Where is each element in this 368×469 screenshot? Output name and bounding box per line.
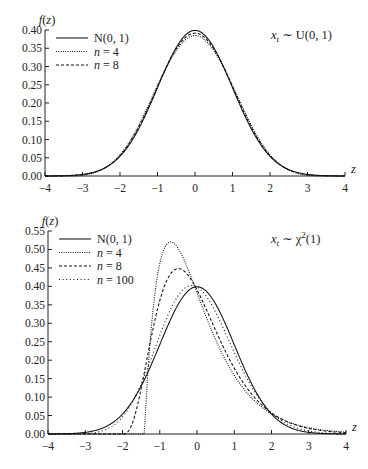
x-tick-label: 1 <box>231 440 237 452</box>
x-axis-label: z <box>351 420 357 434</box>
series-n-0-1 <box>48 287 346 434</box>
x-tick-label: 4 <box>342 182 348 194</box>
y-tick-label: 0.25 <box>25 336 45 348</box>
x-tick-label: 0 <box>192 182 198 194</box>
x-tick-label: 2 <box>269 440 275 452</box>
y-tick-label: 0.45 <box>25 262 45 274</box>
y-axis-label: f(z) <box>42 214 59 228</box>
series-n-0-1 <box>45 30 345 176</box>
series-n-100 <box>48 286 346 434</box>
series-n-4 <box>45 36 345 176</box>
legend-label: N(0, 1) <box>94 31 129 45</box>
y-tick-label: 0.00 <box>25 428 45 440</box>
y-tick-label: 0.15 <box>25 373 45 385</box>
y-tick-label: 0.50 <box>25 243 45 255</box>
y-tick-label: 0.30 <box>25 317 45 329</box>
y-axis-label: f(z) <box>39 13 56 27</box>
legend-label: n = 8 <box>94 58 119 72</box>
y-tick-label: 0.10 <box>22 134 42 146</box>
x-tick-label: −3 <box>76 182 88 194</box>
legend-label: n = 8 <box>97 259 122 273</box>
series-n-8 <box>48 269 346 434</box>
y-tick-label: 0.30 <box>22 61 42 73</box>
y-tick-label: 0.35 <box>22 42 42 54</box>
y-tick-label: 0.10 <box>25 391 45 403</box>
legend-label: N(0, 1) <box>97 232 132 246</box>
legend-label: n = 4 <box>97 246 122 260</box>
y-tick-label: 0.05 <box>25 410 45 422</box>
y-tick-label: 0.20 <box>25 354 45 366</box>
x-tick-label: −2 <box>114 182 126 194</box>
x-tick-label: 3 <box>306 440 312 452</box>
x-tick-label: 3 <box>305 182 311 194</box>
series-n-8 <box>45 33 345 176</box>
distribution-annotation: xt ∼ U(0, 1) <box>270 28 332 44</box>
x-tick-label: −4 <box>42 440 54 452</box>
x-axis-label: z <box>350 162 356 176</box>
chart-chi-square: 0.000.050.100.150.200.250.300.350.400.45… <box>25 214 357 452</box>
y-tick-label: 0.00 <box>22 170 42 182</box>
x-tick-label: 0 <box>194 440 200 452</box>
x-tick-label: −2 <box>116 440 128 452</box>
y-tick-label: 0.15 <box>22 115 42 127</box>
x-tick-label: −1 <box>151 182 163 194</box>
x-tick-label: 1 <box>230 182 236 194</box>
figure: 0.000.050.100.150.200.250.300.350.40−4−3… <box>0 0 368 469</box>
y-tick-label: 0.20 <box>22 97 42 109</box>
distribution-annotation: xt ∼ χ2(1) <box>270 230 320 248</box>
x-tick-label: 4 <box>343 440 349 452</box>
chart-uniform: 0.000.050.100.150.200.250.300.350.40−4−3… <box>22 13 356 194</box>
x-tick-label: −4 <box>39 182 51 194</box>
y-tick-label: 0.40 <box>25 280 45 292</box>
x-tick-label: 2 <box>267 182 273 194</box>
x-tick-label: −1 <box>154 440 166 452</box>
y-tick-label: 0.05 <box>22 152 42 164</box>
series-n-4 <box>48 242 346 434</box>
y-tick-label: 0.35 <box>25 299 45 311</box>
legend-label: n = 4 <box>94 45 119 59</box>
x-tick-label: −3 <box>79 440 91 452</box>
y-tick-label: 0.25 <box>22 79 42 91</box>
legend-label: n = 100 <box>97 273 134 287</box>
